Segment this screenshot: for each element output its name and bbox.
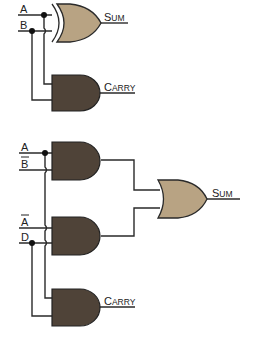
- and-gate-carry-bottom: [52, 289, 100, 326]
- and-gate-abar-d: [52, 217, 100, 255]
- label-b-top: B: [20, 19, 27, 31]
- label-carry-bottom: CARRY: [104, 295, 136, 307]
- label-a-top: A: [20, 3, 28, 15]
- wire-and1-to-or: [101, 160, 160, 190]
- wire-a-to-carry: [44, 15, 52, 84]
- label-abar: A: [21, 216, 29, 228]
- junction-dot: [41, 12, 47, 18]
- label-bbar: B: [21, 158, 28, 170]
- junction-dot: [42, 150, 48, 156]
- label-d: D: [21, 231, 29, 243]
- xor-gate: [52, 4, 101, 42]
- label-a-bottom: A: [21, 141, 29, 153]
- and-gate-a-bbar: [52, 142, 100, 180]
- circuit-diagram: A B SUM CARRY A B A D SUM CARRY: [0, 0, 258, 347]
- or-gate: [158, 180, 207, 218]
- wire-b-to-carry: [32, 31, 52, 100]
- wire-and2-to-or: [101, 208, 160, 236]
- label-sum-bottom: SUM: [212, 187, 233, 199]
- junction-dot: [29, 240, 35, 246]
- wire-d-to-carry-bottom: [32, 243, 52, 316]
- label-sum-top: SUM: [104, 11, 125, 23]
- and-gate-carry-top: [52, 75, 100, 111]
- wire-a-to-carry-bottom: [45, 153, 52, 298]
- junction-dot: [29, 28, 35, 34]
- label-carry-top: CARRY: [104, 81, 136, 93]
